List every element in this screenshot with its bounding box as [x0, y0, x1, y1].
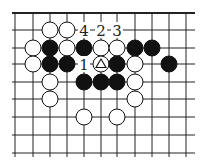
- black-stone: [109, 56, 125, 72]
- go-board-diagram: 4231: [0, 0, 203, 161]
- white-stone: [127, 74, 143, 90]
- white-stone: [93, 40, 109, 56]
- white-stone: [76, 109, 92, 125]
- black-stone: [42, 40, 58, 56]
- white-stone: [42, 74, 58, 90]
- white-stone: [127, 91, 143, 107]
- move-number-label: 1: [79, 56, 89, 74]
- move-number-label: 4: [79, 22, 89, 40]
- black-stone: [59, 56, 75, 72]
- white-stone: [25, 40, 41, 56]
- black-stone: [42, 56, 58, 72]
- white-stone: [59, 40, 75, 56]
- white-stone: [59, 22, 75, 38]
- white-stone: [42, 22, 58, 38]
- black-stone: [161, 56, 177, 72]
- black-stone: [109, 74, 125, 90]
- black-stone: [76, 74, 92, 90]
- black-stone: [127, 40, 143, 56]
- white-stone: [25, 56, 41, 72]
- move-number-label: 3: [112, 22, 122, 40]
- white-stone: [127, 56, 143, 72]
- black-stone: [144, 40, 160, 56]
- black-stone: [93, 74, 109, 90]
- white-stone: [109, 40, 125, 56]
- white-stone: [109, 109, 125, 125]
- black-stone: [76, 40, 92, 56]
- white-stone: [42, 91, 58, 107]
- move-number-label: 2: [96, 22, 106, 40]
